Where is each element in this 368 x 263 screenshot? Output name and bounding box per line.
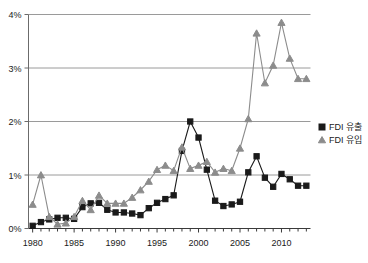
y-tick-label-4: 4%: [8, 10, 21, 20]
x-tick-label-2005: 2005: [230, 238, 250, 248]
data-point-marker: [246, 170, 251, 175]
chart-container: 0%1%2%3%4% 1980198519901995200020052010 …: [0, 0, 368, 263]
data-point-marker: [279, 171, 284, 176]
data-point-marker: [237, 199, 242, 204]
x-tick-label-2000: 2000: [189, 238, 209, 248]
data-point-marker: [163, 196, 168, 201]
data-point-marker: [229, 202, 234, 207]
x-tick-label-1990: 1990: [106, 238, 126, 248]
data-point-marker: [204, 167, 209, 172]
data-point-marker: [130, 211, 135, 216]
data-point-marker: [171, 193, 176, 198]
legend-label: FDI 유출: [329, 122, 362, 132]
x-tick-label-1985: 1985: [64, 238, 84, 248]
x-tick-label-1995: 1995: [147, 238, 167, 248]
data-point-marker: [105, 207, 110, 212]
data-point-marker: [138, 213, 143, 218]
data-point-marker: [30, 223, 35, 228]
data-point-marker: [188, 119, 193, 124]
y-tick-label-1: 1%: [8, 171, 21, 181]
data-point-marker: [213, 198, 218, 203]
x-tick-label-2010: 2010: [271, 238, 291, 248]
data-point-marker: [113, 210, 118, 215]
y-tick-label-2: 2%: [8, 117, 21, 127]
legend-label: FDI 유입: [329, 134, 362, 145]
data-point-marker: [262, 175, 267, 180]
data-point-marker: [154, 200, 159, 205]
data-point-marker: [295, 183, 300, 188]
x-tick-label-1980: 1980: [23, 238, 43, 248]
y-tick-label-0: 0%: [8, 224, 21, 234]
data-point-marker: [271, 184, 276, 189]
data-point-marker: [221, 203, 226, 208]
data-point-marker: [146, 206, 151, 211]
data-point-marker: [121, 210, 126, 215]
legend-square-marker-icon: [319, 124, 325, 130]
y-tick-label-3: 3%: [8, 64, 21, 74]
data-point-marker: [254, 154, 259, 159]
data-point-marker: [88, 201, 93, 206]
data-point-marker: [304, 183, 309, 188]
data-point-marker: [287, 177, 292, 182]
data-point-marker: [96, 200, 101, 205]
data-point-marker: [38, 219, 43, 224]
fdi-line-chart: 0%1%2%3%4% 1980198519901995200020052010 …: [0, 0, 368, 263]
data-point-marker: [55, 215, 60, 220]
chart-background: [0, 0, 368, 263]
data-point-marker: [196, 135, 201, 140]
